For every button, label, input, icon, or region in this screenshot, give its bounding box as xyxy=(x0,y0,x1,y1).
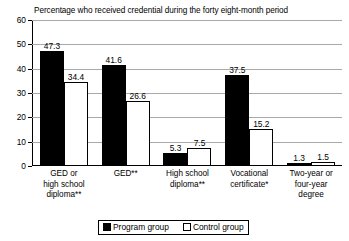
y-axis-tick-mark xyxy=(28,117,32,118)
y-axis-tick-label: 50 xyxy=(17,40,26,48)
bar-group: 37.515.2 xyxy=(218,20,280,166)
y-axis-tick-mark xyxy=(28,142,32,143)
outlined-square-icon xyxy=(183,223,191,231)
y-axis-tick-mark xyxy=(28,20,32,21)
bar-value-label: 7.5 xyxy=(194,139,206,148)
legend-item: Program group xyxy=(103,222,169,232)
bar: 47.3 xyxy=(40,51,64,166)
bar-value-label: 47.3 xyxy=(44,42,60,51)
filled-square-icon xyxy=(103,223,111,231)
chart-title: Percentage who received credential durin… xyxy=(34,6,346,16)
bar-groups: 47.334.441.626.65.37.537.515.21.31.5 xyxy=(33,20,342,166)
bar: 7.5 xyxy=(187,148,211,166)
x-axis-category-label: Vocational certificate* xyxy=(218,169,280,201)
plot-area: 0102030405060 47.334.441.626.65.37.537.5… xyxy=(32,20,342,166)
bar: 15.2 xyxy=(249,129,273,166)
y-axis-tick-label: 40 xyxy=(17,64,26,72)
bar-value-label: 34.4 xyxy=(68,73,84,82)
x-axis-category-labels: GED or high school diploma**GED**High sc… xyxy=(33,169,342,201)
bar: 37.5 xyxy=(225,75,249,166)
bar-value-label: 1.3 xyxy=(293,154,305,163)
x-axis-category-label: High school diploma** xyxy=(157,169,219,201)
chart-legend: Program groupControl group xyxy=(98,220,249,235)
x-axis-category-label: Two-year or four-year degree xyxy=(280,169,342,201)
y-axis-tick-label: 30 xyxy=(17,89,26,97)
bar-group: 5.37.5 xyxy=(157,20,219,166)
bar-value-label: 37.5 xyxy=(229,66,245,75)
legend-item: Control group xyxy=(183,222,244,232)
bar-value-label: 41.6 xyxy=(106,56,122,65)
y-axis-tick-label: 10 xyxy=(17,137,26,145)
y-axis-tick-label: 0 xyxy=(21,162,26,170)
bar: 41.6 xyxy=(102,65,126,166)
bar: 1.3 xyxy=(287,163,311,166)
x-axis-category-label: GED or high school diploma** xyxy=(33,169,95,201)
y-axis-tick-mark xyxy=(28,166,32,167)
bar-value-label: 5.3 xyxy=(170,144,182,153)
bar: 5.3 xyxy=(163,153,187,166)
bar-group: 41.626.6 xyxy=(95,20,157,166)
y-axis-tick-mark xyxy=(28,44,32,45)
legend-label: Control group xyxy=(193,222,244,232)
bar-group: 1.31.5 xyxy=(280,20,342,166)
bar: 26.6 xyxy=(126,101,150,166)
bar-chart: Percentage who received credential durin… xyxy=(0,0,349,241)
y-axis-tick-label: 20 xyxy=(17,113,26,121)
bar-group: 47.334.4 xyxy=(33,20,95,166)
bar: 34.4 xyxy=(64,82,88,166)
bar-value-label: 1.5 xyxy=(317,153,329,162)
bar-value-label: 26.6 xyxy=(130,92,146,101)
x-axis-category-label: GED** xyxy=(95,169,157,201)
y-axis-tick-mark xyxy=(28,69,32,70)
bar-value-label: 15.2 xyxy=(253,120,269,129)
y-axis-tick-label: 60 xyxy=(17,16,26,24)
y-axis-tick-mark xyxy=(28,93,32,94)
legend-label: Program group xyxy=(113,222,169,232)
bar: 1.5 xyxy=(311,162,335,166)
